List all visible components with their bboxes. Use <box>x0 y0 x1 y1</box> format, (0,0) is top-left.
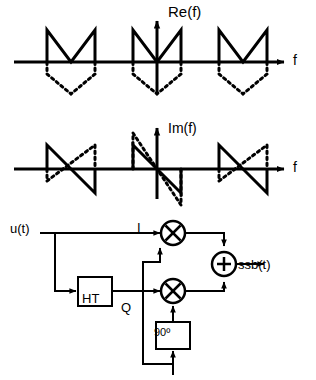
imaginary-part-spectrum <box>14 128 284 205</box>
re-dotted-group-left <box>47 62 95 94</box>
input-branch-to-ht <box>55 233 76 291</box>
input-signal-label: u(t) <box>10 222 30 235</box>
ssb-diagram-svg <box>0 0 316 380</box>
re-dotted-group-right <box>219 62 267 94</box>
ssb-modulator-block-diagram <box>40 221 264 375</box>
phase-shifter-label: 90º <box>154 327 170 338</box>
output-signal-label: ssb(t) <box>238 258 271 271</box>
im-axis-label: Im(f) <box>168 121 197 135</box>
frequency-axis-label-1: f <box>293 53 297 67</box>
quadrature-to-summer-line <box>185 282 224 291</box>
real-part-spectrum <box>14 21 284 94</box>
quadrature-branch-label: Q <box>121 301 131 314</box>
re-solid-group-right <box>219 30 267 62</box>
re-solid-group-left <box>47 30 95 62</box>
re-axis-label: Re(f) <box>168 4 201 19</box>
frequency-axis-label-2: f <box>293 160 297 174</box>
ssb-figure: Re(f) Im(f) f f u(t) I Q HT 90º ssb(t) <box>0 0 316 380</box>
inphase-to-summer-line <box>185 233 224 246</box>
inphase-branch-label: I <box>137 221 141 234</box>
hilbert-transform-label: HT <box>82 292 99 305</box>
